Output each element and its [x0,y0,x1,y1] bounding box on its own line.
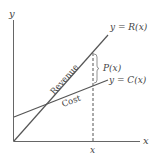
x-marker-label: x [90,145,95,155]
profit-brace [94,54,99,83]
revenue-equation: y = R(x) [109,22,148,32]
cost-equation: y = C(x) [108,75,147,85]
x-axis-label: x [143,135,149,146]
revenue-label: Revenue [48,62,80,96]
cost-label: Cost [60,93,82,109]
y-axis-label: y [8,8,15,19]
profit-label: P(x) [102,63,122,73]
revenue-cost-diagram: y x x y = R(x) y = C(x) P(x) Revenue Cos… [0,0,163,157]
